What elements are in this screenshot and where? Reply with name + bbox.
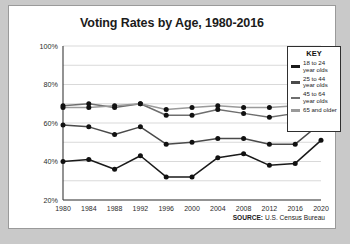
legend-swatch-icon	[291, 97, 300, 100]
legend-swatch-icon	[291, 109, 300, 112]
legend-swatch-icon	[291, 65, 300, 68]
data-point	[267, 105, 272, 110]
legend-item-1: 18 to 24 year olds	[291, 60, 337, 73]
series-layer	[61, 97, 324, 179]
data-point	[164, 113, 169, 118]
data-point	[215, 155, 220, 160]
legend-rows: 18 to 24 year olds25 to 44 year olds45 t…	[291, 60, 337, 114]
data-point	[190, 140, 195, 145]
data-point	[267, 163, 272, 168]
legend-key-box: KEY 18 to 24 year olds25 to 44 year olds…	[287, 46, 341, 132]
x-tick-label: 2012	[262, 205, 278, 212]
data-point	[86, 157, 91, 162]
data-point	[215, 103, 220, 108]
x-tick-label: 2008	[236, 205, 252, 212]
x-tick-label: 2000	[184, 205, 200, 212]
data-point	[241, 111, 246, 116]
data-point	[138, 124, 143, 129]
source-text: U.S. Census Bureau	[265, 214, 325, 221]
data-point	[112, 167, 117, 172]
legend-swatch-icon	[291, 81, 300, 84]
y-tick-label: 80%	[44, 80, 59, 89]
x-tick-label: 1992	[133, 205, 149, 212]
data-point	[164, 107, 169, 112]
data-point	[190, 113, 195, 118]
x-tick-label: 1984	[81, 205, 97, 212]
y-tick-label: 100%	[40, 42, 59, 51]
data-point	[112, 132, 117, 137]
data-point	[241, 105, 246, 110]
legend-item-4: 65 and older	[291, 107, 337, 114]
legend-label: 25 to 44 year olds	[303, 76, 337, 89]
source-note: SOURCE: U.S. Census Bureau	[233, 214, 325, 221]
legend-label: 65 and older	[303, 107, 337, 114]
x-tick-label: 2016	[287, 205, 303, 212]
x-tick-labels: 1980198419881992199620002004200820122016…	[55, 205, 329, 212]
x-tick-label: 1980	[55, 205, 71, 212]
data-point	[241, 151, 246, 156]
data-point	[215, 136, 220, 141]
data-point	[190, 174, 195, 179]
data-point	[138, 153, 143, 158]
x-tick-label: 2004	[210, 205, 226, 212]
data-point	[190, 105, 195, 110]
legend-item-2: 25 to 44 year olds	[291, 76, 337, 89]
data-point	[241, 136, 246, 141]
data-point	[293, 142, 298, 147]
data-point	[164, 174, 169, 179]
y-tick-label: 20%	[44, 196, 59, 205]
data-point	[61, 122, 66, 127]
data-point	[86, 124, 91, 129]
legend-item-3: 45 to 64 year olds	[291, 91, 337, 104]
chart-card: Voting Rates by Age, 1980-2016 20%40%60%…	[8, 5, 336, 229]
x-tick-label: 1988	[107, 205, 123, 212]
data-point	[61, 105, 66, 110]
y-tick-label: 60%	[44, 119, 59, 128]
data-point	[61, 159, 66, 164]
source-label: SOURCE:	[233, 214, 263, 221]
legend-label: 45 to 64 year olds	[303, 91, 337, 104]
data-point	[267, 115, 272, 120]
data-point	[319, 138, 324, 143]
data-point	[112, 103, 117, 108]
x-tick-label: 2020	[313, 205, 329, 212]
data-point	[267, 142, 272, 147]
y-tick-label: 40%	[44, 157, 59, 166]
data-point	[138, 101, 143, 106]
data-point	[164, 142, 169, 147]
legend-label: 18 to 24 year olds	[303, 60, 337, 73]
series-2	[61, 121, 324, 147]
data-point	[86, 105, 91, 110]
y-tick-labels: 20%40%60%80%100%	[40, 42, 59, 205]
data-point	[293, 161, 298, 166]
x-tick-label: 1996	[158, 205, 174, 212]
legend-title: KEY	[291, 49, 337, 58]
series-line	[63, 140, 321, 177]
